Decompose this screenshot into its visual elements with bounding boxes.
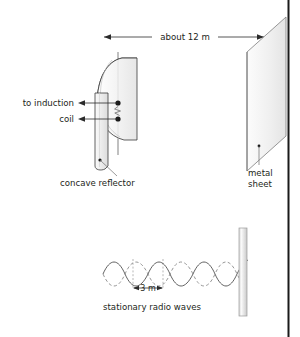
wavelength-dimension: 3 m (133, 284, 163, 293)
to-induction-label: to induction (23, 98, 74, 108)
distance-dimension: about 12 m (104, 32, 264, 42)
arrow-left-icon (104, 34, 111, 39)
wavelength-label: 3 m (140, 284, 156, 293)
coil-label: coil (59, 114, 74, 124)
metal-sheet-edge-bar (239, 228, 247, 316)
antenna-cylinder (95, 93, 108, 170)
metal-sheet-panel (247, 17, 286, 171)
lead-arrow-upper-icon (78, 100, 85, 105)
concave-reflector-label: concave reflector (60, 178, 135, 188)
concave-reflector-assembly: to induction coil concave reflector (23, 52, 137, 188)
metal-sheet-label-line2: sheet (248, 179, 272, 189)
wavelength-arrow-left-icon (133, 286, 139, 290)
metal-sheet-label-line1: metal (248, 168, 273, 178)
wavelength-arrow-right-icon (157, 286, 163, 290)
wave-dashed-path (103, 262, 248, 288)
distance-label: about 12 m (160, 32, 210, 42)
wave-caption: stationary radio waves (103, 302, 201, 312)
hertz-experiment-diagram: about 12 m to induction coil (0, 0, 300, 337)
standing-wave-diagram: 3 m stationary radio waves (103, 228, 248, 316)
metal-sheet-group: metal sheet (247, 17, 286, 189)
wave-solid-path (103, 260, 248, 286)
lead-arrow-lower-icon (78, 116, 85, 121)
